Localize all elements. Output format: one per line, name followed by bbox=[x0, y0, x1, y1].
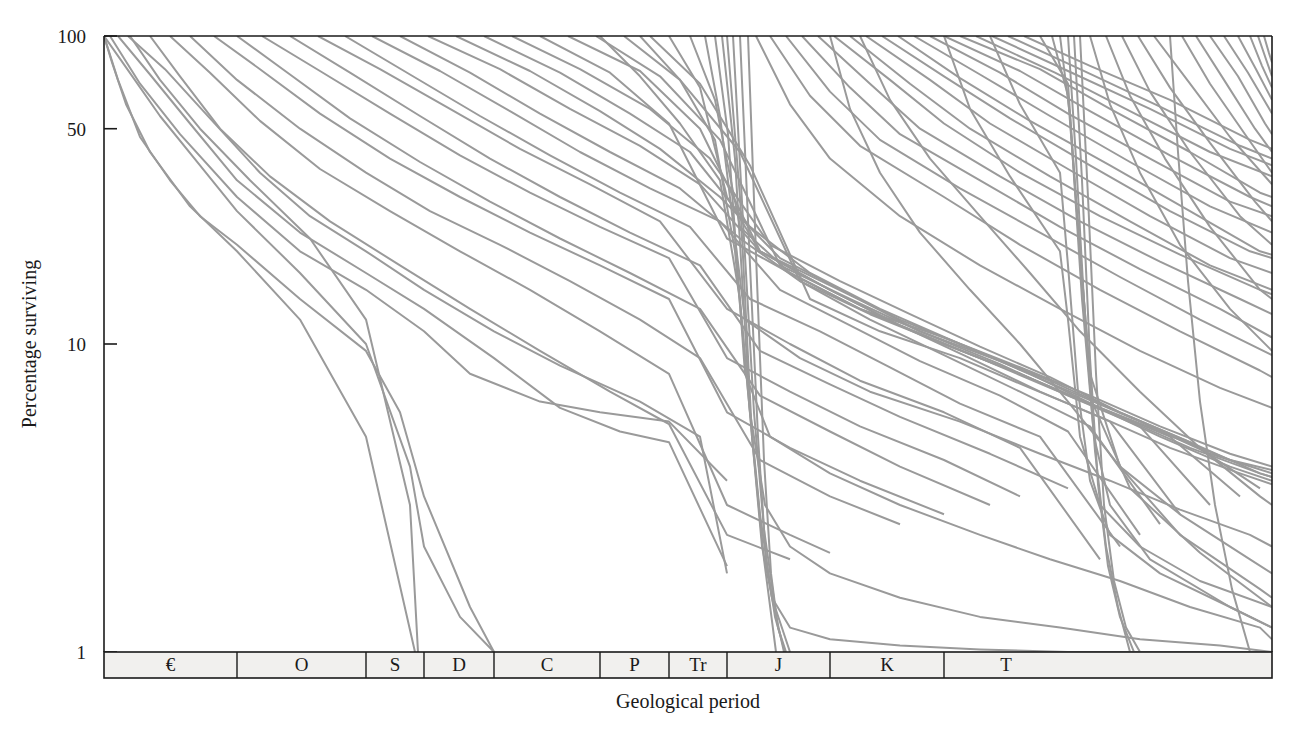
period-label-devonian: D bbox=[452, 654, 466, 675]
period-label-carboniferous: C bbox=[541, 654, 554, 675]
period-label-ordovician: O bbox=[295, 654, 309, 675]
period-label-tertiary: T bbox=[1000, 654, 1012, 675]
chart-background bbox=[0, 0, 1301, 738]
geological-period-band: €OSDCPTrJKT bbox=[104, 652, 1272, 678]
period-label-jurassic: J bbox=[775, 654, 782, 675]
x-axis-title: Geological period bbox=[616, 690, 760, 713]
period-label-cretaceous: K bbox=[880, 654, 894, 675]
y-axis-tick-label: 1 bbox=[77, 642, 87, 663]
period-label-cambrian: € bbox=[166, 654, 176, 675]
y-axis-tick-label: 100 bbox=[58, 26, 87, 47]
period-label-triassic: Tr bbox=[689, 654, 707, 675]
y-axis-tick-label: 50 bbox=[67, 119, 86, 140]
period-label-silurian: S bbox=[390, 654, 401, 675]
figure-canvas: €OSDCPTrJKT 10050101Percentage surviving… bbox=[0, 0, 1301, 738]
period-band-background bbox=[104, 652, 1272, 678]
survivorship-chart: €OSDCPTrJKT 10050101Percentage surviving… bbox=[0, 0, 1301, 738]
y-axis-tick-label: 10 bbox=[67, 334, 86, 355]
y-axis-title: Percentage surviving bbox=[18, 260, 41, 428]
period-label-permian: P bbox=[629, 654, 640, 675]
